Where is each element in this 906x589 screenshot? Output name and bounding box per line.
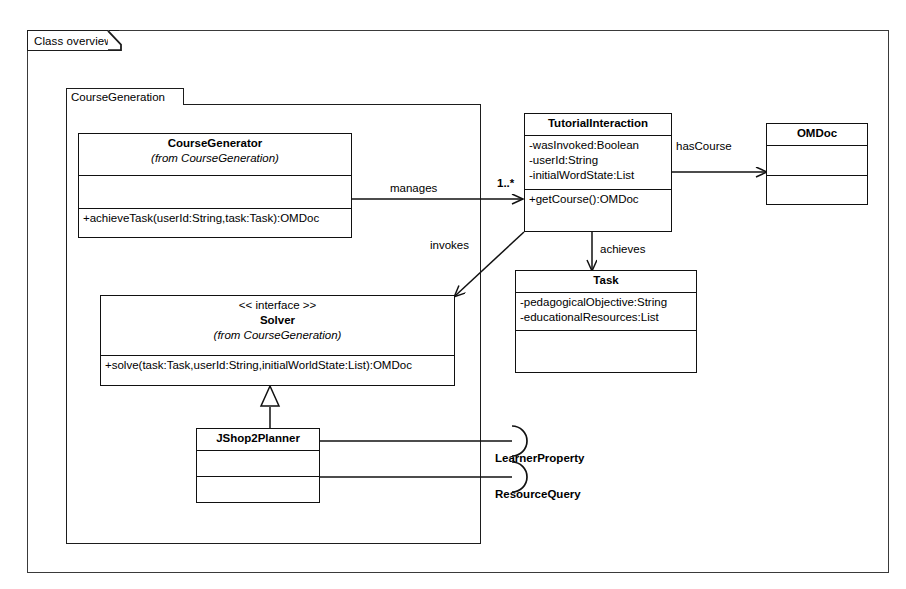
solver-operation-0: +solve(task:Task,userId:String,initialWo… xyxy=(105,358,450,373)
label-interface-learnerproperty: LearnerProperty xyxy=(495,452,584,464)
task-attributes: -pedagogicalObjective:String -educationa… xyxy=(516,293,696,331)
label-achieves: achieves xyxy=(600,243,645,255)
solver-name: Solver xyxy=(105,313,450,328)
package-coursegeneration-label: CourseGeneration xyxy=(71,91,165,103)
omdoc-name: OMDoc xyxy=(771,126,863,141)
label-manages-multiplicity: 1..* xyxy=(497,177,514,189)
tutorialinteraction-attribute-1: -userId:String xyxy=(529,153,667,168)
label-manages: manages xyxy=(390,182,437,194)
solver-operations: +solve(task:Task,userId:String,initialWo… xyxy=(101,356,454,387)
solver-stereotype: << interface >> xyxy=(105,298,450,313)
task-operations xyxy=(516,331,696,374)
uml-class-diagram-canvas: Class overview CourseGeneration xyxy=(0,0,906,589)
task-attribute-0: -pedagogicalObjective:String xyxy=(520,295,692,310)
tutorialinteraction-header: TutorialInteraction xyxy=(525,114,671,136)
solver-from: (from CourseGeneration) xyxy=(105,328,450,343)
jshop2planner-name: JShop2Planner xyxy=(201,431,315,446)
tutorialinteraction-attribute-2: -initialWordState:List xyxy=(529,168,667,183)
coursegenerator-header: CourseGenerator (from CourseGeneration) xyxy=(79,134,351,176)
class-box-solver[interactable]: << interface >> Solver (from CourseGener… xyxy=(100,295,455,386)
class-box-omdoc[interactable]: OMDoc xyxy=(766,123,868,205)
class-box-task[interactable]: Task -pedagogicalObjective:String -educa… xyxy=(515,270,697,373)
coursegenerator-attributes xyxy=(79,176,351,209)
solver-header: << interface >> Solver (from CourseGener… xyxy=(101,296,454,356)
coursegenerator-operation-0: +achieveTask(userId:String,task:Task):OM… xyxy=(83,211,347,226)
jshop2planner-operations xyxy=(197,477,319,504)
task-header: Task xyxy=(516,271,696,293)
label-interface-resourcequery: ResourceQuery xyxy=(495,488,581,500)
jshop2planner-attributes xyxy=(197,451,319,477)
class-box-tutorialinteraction[interactable]: TutorialInteraction -wasInvoked:Boolean … xyxy=(524,113,672,232)
task-attribute-1: -educationalResources:List xyxy=(520,310,692,325)
class-box-jshop2planner[interactable]: JShop2Planner xyxy=(196,428,320,503)
tutorialinteraction-attribute-0: -wasInvoked:Boolean xyxy=(529,138,667,153)
jshop2planner-header: JShop2Planner xyxy=(197,429,319,451)
coursegenerator-from: (from CourseGeneration) xyxy=(83,151,347,166)
tutorialinteraction-name: TutorialInteraction xyxy=(529,116,667,131)
omdoc-header: OMDoc xyxy=(767,124,867,146)
diagram-frame-tab[interactable]: Class overview xyxy=(27,30,119,51)
tutorialinteraction-attributes: -wasInvoked:Boolean -userId:String -init… xyxy=(525,136,671,190)
coursegenerator-operations: +achieveTask(userId:String,task:Task):OM… xyxy=(79,209,351,237)
tutorialinteraction-operations: +getCourse():OMDoc xyxy=(525,190,671,216)
label-invokes: invokes xyxy=(430,239,469,251)
coursegenerator-name: CourseGenerator xyxy=(83,136,347,151)
package-tab-seam-mask xyxy=(68,103,182,106)
diagram-frame-tab-label: Class overview xyxy=(34,35,113,47)
label-hascourse: hasCourse xyxy=(676,140,732,152)
class-box-coursegenerator[interactable]: CourseGenerator (from CourseGeneration) … xyxy=(78,133,352,238)
tutorialinteraction-operation-0: +getCourse():OMDoc xyxy=(529,192,667,207)
omdoc-attributes xyxy=(767,146,867,176)
task-name: Task xyxy=(520,273,692,288)
omdoc-operations xyxy=(767,176,867,204)
